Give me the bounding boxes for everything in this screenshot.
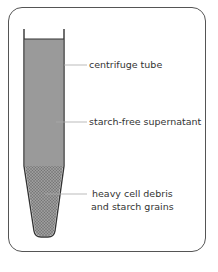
label-centrifuge-tube: centrifuge tube xyxy=(89,59,162,71)
centrifuge-tube-diagram xyxy=(0,0,218,272)
supernatant-region xyxy=(25,39,63,166)
label-supernatant: starch-free supernatant xyxy=(89,116,201,128)
label-pellet-line1: heavy cell debris xyxy=(92,188,173,200)
pellet-region xyxy=(25,166,63,236)
label-pellet-line2: and starch grains xyxy=(91,201,174,213)
